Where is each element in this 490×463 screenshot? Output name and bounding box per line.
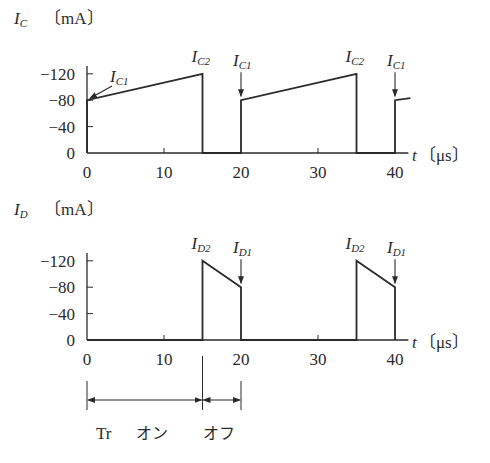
- annotation-label: ID2: [191, 234, 212, 254]
- annotation-label: ID1: [386, 238, 406, 258]
- y-tick-label: −40: [48, 305, 75, 324]
- x-axis-unit: 〔μs〕: [419, 333, 469, 352]
- annotation-label: IC1: [109, 67, 129, 87]
- annotation-label: IC2: [345, 47, 365, 67]
- x-tick-label: 30: [310, 350, 327, 369]
- annotation-label: ID1: [232, 238, 252, 258]
- id-chart: ID〔mA〕0−40−80−120010203040t〔μs〕ID2ID1ID2…: [13, 200, 469, 369]
- y-tick-label: −80: [48, 278, 75, 297]
- tr-label: Tr: [96, 424, 112, 443]
- annotation-label: IC1: [232, 51, 252, 71]
- y-tick-label: −80: [48, 91, 75, 110]
- y-axis-label: IC: [13, 9, 28, 29]
- annotation-label: IC1: [386, 51, 406, 71]
- x-tick-label: 20: [233, 350, 250, 369]
- x-tick-label: 30: [310, 163, 327, 182]
- x-tick-label: 40: [387, 350, 404, 369]
- x-tick-label: 0: [83, 163, 92, 182]
- x-tick-label: 0: [83, 350, 92, 369]
- x-tick-label: 40: [387, 163, 404, 182]
- x-tick-label: 10: [156, 163, 173, 182]
- annotation-label: ID2: [345, 234, 366, 254]
- ic-chart: IC〔mA〕0−40−80−120010203040t〔μs〕IC1IC2IC1…: [13, 9, 469, 182]
- y-tick-label: 0: [67, 144, 76, 163]
- y-tick-label: −40: [48, 118, 75, 137]
- x-axis-unit: 〔μs〕: [419, 146, 469, 165]
- series-line-I_C: [87, 74, 410, 153]
- off-label: オフ: [203, 425, 235, 442]
- x-tick-label: 20: [233, 163, 250, 182]
- x-axis-label: t: [412, 146, 418, 165]
- x-axis-label: t: [412, 333, 418, 352]
- on-label: オン: [136, 425, 168, 442]
- y-tick-label: 0: [67, 331, 76, 350]
- annotation-label: IC2: [191, 47, 211, 67]
- y-tick-label: −120: [40, 252, 75, 271]
- chart-canvas: IC〔mA〕0−40−80−120010203040t〔μs〕IC1IC2IC1…: [0, 0, 490, 463]
- y-axis-unit: 〔mA〕: [44, 200, 104, 219]
- y-axis-unit: 〔mA〕: [44, 9, 104, 28]
- x-tick-label: 10: [156, 350, 173, 369]
- y-axis-label: ID: [13, 200, 28, 220]
- timing-diagram: Trオンオフ: [87, 356, 241, 443]
- y-tick-label: −120: [40, 65, 75, 84]
